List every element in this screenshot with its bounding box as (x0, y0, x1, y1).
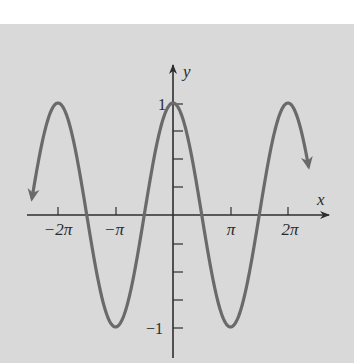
x-tick-label-2pi: 2π (281, 220, 299, 239)
x-tick-label-minus-pi: −π (104, 220, 124, 239)
y-tick-label-1: 1 (158, 96, 166, 113)
cosine-chart: y x 1 −1 −2π −π π 2π (0, 0, 354, 363)
x-axis-label: x (316, 190, 325, 209)
x-tick-label-pi: π (227, 220, 236, 239)
x-tick-label-minus-2pi: −2π (44, 220, 73, 239)
y-ticks (173, 104, 183, 328)
y-axis-label: y (181, 62, 191, 81)
y-tick-label-minus-1: −1 (146, 320, 163, 337)
